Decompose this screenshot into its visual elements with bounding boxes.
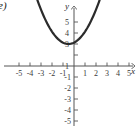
x-tick-label: -3 [38,69,45,78]
x-tick-label: 3 [105,69,109,78]
y-tick-label: -2 [64,84,71,93]
x-tick-label: -5 [16,69,23,78]
y-tick-label: -4 [64,106,71,115]
x-tick-label: 1 [83,69,87,78]
coordinate-plane: -5 -4 -3 -2 -1 1 2 3 4 5 5 4 3 1 -1 -2 -… [0,0,140,127]
x-tick-label: -4 [27,69,34,78]
parabola-figure: e) [0,0,140,127]
x-tick-label: 4 [116,69,120,78]
x-axis-label: x [130,66,135,76]
y-axis-ticks [74,22,78,121]
y-axis-label: y [64,1,69,11]
x-tick-label: -2 [49,69,56,78]
y-tick-label: -1 [64,73,71,82]
y-tick-label: 5 [65,18,69,27]
y-tick-label: 4 [65,29,69,38]
y-tick-label: -3 [64,95,71,104]
x-tick-label: 2 [94,69,98,78]
y-tick-label: -5 [64,117,71,126]
y-tick-label: 1 [65,62,69,71]
